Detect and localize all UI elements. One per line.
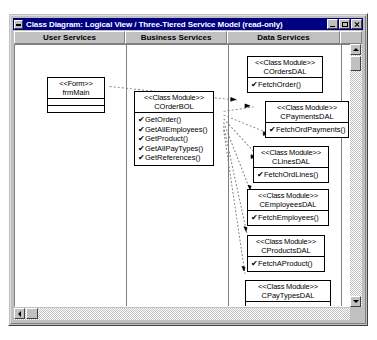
operation-marker-icon: ✔: [138, 153, 145, 163]
title-bar: Class Diagram: Logical View / Three-Tier…: [13, 18, 363, 30]
operation-marker-icon: ✔: [269, 125, 276, 135]
chevron-left-icon: [18, 311, 21, 317]
cpaymentsdal-name-compartment: <<Class Module>> CPaymentsDAL: [266, 102, 348, 123]
close-button[interactable]: [351, 19, 362, 29]
uml-class-cemployeesdal[interactable]: <<Class Module>> CEmployeesDAL ✔FetchEmp…: [247, 189, 329, 226]
operation-row: ✔GetReferences(): [138, 153, 211, 163]
operation-label: GetAllPayTypes(): [145, 144, 203, 154]
maximize-button[interactable]: [339, 19, 350, 29]
operation-marker-icon: ✔: [138, 115, 145, 125]
operation-row: ✔FetchEmployees(): [251, 213, 326, 223]
swimlane-headers: User Services Business Services Data Ser…: [14, 31, 362, 44]
uml-class-cproductsdal[interactable]: <<Class Module>> CProductsDAL ✔FetchAPro…: [247, 235, 325, 272]
operation-marker-icon: ✔: [257, 170, 264, 180]
minimize-button[interactable]: [327, 19, 338, 29]
operation-label: FetchOrdPayments(): [276, 125, 346, 135]
operation-marker-icon: ✔: [249, 304, 256, 307]
cproductsdal-operations-compartment: ✔FetchAProduct(): [248, 257, 324, 271]
operation-label: GetAllEmployees(): [145, 125, 208, 135]
operation-marker-icon: ✔: [138, 125, 145, 135]
uml-class-cpaytypesdal[interactable]: <<Class Module>> CPayTypesDAL ✔FetchPaym…: [245, 280, 331, 307]
frmmain-attributes-compartment: [48, 99, 104, 106]
cemployeesdal-name-compartment: <<Class Module>> CEmployeesDAL: [248, 190, 328, 211]
operation-row: ✔FetchOrdPayments(): [269, 125, 346, 135]
uml-class-frmmain[interactable]: <<Form>> frmMain: [47, 77, 105, 113]
clinesdal-name-compartment: <<Class Module>> CLinesDAL: [254, 147, 328, 168]
operation-marker-icon: ✔: [138, 144, 145, 154]
diagram-canvas[interactable]: <<Form>> frmMain <<Class Module>> COrder…: [14, 44, 362, 307]
scrollbar-corner: [350, 308, 362, 320]
operation-marker-icon: ✔: [251, 80, 258, 90]
operation-row: ✔FetchPaymentTypes(): [249, 304, 328, 307]
clinesdal-stereotype: <<Class Module>>: [256, 148, 326, 157]
cordersdal-class-name: COrdersDAL: [250, 67, 320, 76]
system-menu-icon[interactable]: [14, 20, 23, 29]
operation-row: ✔FetchOrdLines(): [257, 170, 326, 180]
horizontal-scrollbar-thumb[interactable]: [26, 308, 38, 319]
cemployeesdal-operations-compartment: ✔FetchEmployees(): [248, 211, 328, 225]
cpaytypesdal-stereotype: <<Class Module>>: [248, 282, 328, 291]
operation-marker-icon: ✔: [138, 134, 145, 144]
operation-label: FetchEmployees(): [258, 213, 319, 223]
cordersdal-operations-compartment: ✔FetchOrder(): [248, 78, 322, 92]
cproductsdal-name-compartment: <<Class Module>> CProductsDAL: [248, 236, 324, 257]
operation-label: FetchOrdLines(): [264, 170, 318, 180]
cpaymentsdal-stereotype: <<Class Module>>: [268, 103, 346, 112]
operation-row: ✔GetAllEmployees(): [138, 125, 211, 135]
operation-row: ✔GetProduct(): [138, 134, 211, 144]
corderbol-operations-compartment: ✔GetOrder() ✔GetAllEmployees() ✔GetProdu…: [135, 113, 213, 165]
uml-class-cpaymentsdal[interactable]: <<Class Module>> CPaymentsDAL ✔FetchOrdP…: [265, 101, 349, 138]
operation-row: ✔GetAllPayTypes(): [138, 144, 211, 154]
frmmain-operations-compartment: [48, 106, 104, 112]
cproductsdal-class-name: CProductsDAL: [250, 246, 322, 255]
window-inner-frame: Class Diagram: Logical View / Three-Tier…: [10, 15, 366, 324]
column-header-business-services[interactable]: Business Services: [125, 31, 227, 44]
cordersdal-name-compartment: <<Class Module>> COrdersDAL: [248, 57, 322, 78]
operation-row: ✔FetchOrder(): [251, 80, 320, 90]
operation-label: GetOrder(): [145, 115, 181, 125]
operation-label: GetReferences(): [145, 153, 200, 163]
operation-label: FetchPaymentTypes(): [256, 304, 329, 307]
horizontal-scrollbar-track[interactable]: [14, 308, 362, 320]
cpaymentsdal-class-name: CPaymentsDAL: [268, 112, 346, 121]
frmmain-stereotype: <<Form>>: [50, 79, 102, 88]
corderbol-name-compartment: <<Class Module>> COrderBOL: [135, 92, 213, 113]
class-diagram-window: Class Diagram: Logical View / Three-Tier…: [8, 13, 368, 326]
uml-class-corderbol[interactable]: <<Class Module>> COrderBOL ✔GetOrder() ✔…: [134, 91, 214, 166]
cpaytypesdal-class-name: CPayTypesDAL: [248, 291, 328, 300]
cpaytypesdal-name-compartment: <<Class Module>> CPayTypesDAL: [246, 281, 330, 302]
operation-marker-icon: ✔: [251, 213, 258, 223]
operation-label: FetchOrder(): [258, 80, 301, 90]
column-header-user-services[interactable]: User Services: [14, 31, 125, 44]
operation-label: FetchAProduct(): [258, 259, 313, 269]
scroll-left-button[interactable]: [14, 308, 25, 319]
clinesdal-operations-compartment: ✔FetchOrdLines(): [254, 168, 328, 182]
horizontal-scrollbar[interactable]: [14, 308, 362, 320]
cproductsdal-stereotype: <<Class Module>>: [250, 237, 322, 246]
frmmain-name-compartment: <<Form>> frmMain: [48, 78, 104, 99]
corderbol-class-name: COrderBOL: [137, 102, 211, 111]
cpaymentsdal-operations-compartment: ✔FetchOrdPayments(): [266, 123, 348, 137]
frmmain-class-name: frmMain: [50, 88, 102, 97]
operation-row: ✔FetchAProduct(): [251, 259, 322, 269]
cemployeesdal-class-name: CEmployeesDAL: [250, 200, 326, 209]
window-controls: [327, 19, 363, 29]
cordersdal-stereotype: <<Class Module>>: [250, 58, 320, 67]
operation-row: ✔GetOrder(): [138, 115, 211, 125]
operation-label: GetProduct(): [145, 134, 188, 144]
operation-marker-icon: ✔: [251, 259, 258, 269]
clinesdal-class-name: CLinesDAL: [256, 157, 326, 166]
cpaytypesdal-operations-compartment: ✔FetchPaymentTypes(): [246, 302, 330, 307]
column-header-spare[interactable]: [340, 31, 362, 44]
cemployeesdal-stereotype: <<Class Module>>: [250, 191, 326, 200]
uml-class-clinesdal[interactable]: <<Class Module>> CLinesDAL ✔FetchOrdLine…: [253, 146, 329, 183]
column-header-data-services[interactable]: Data Services: [227, 31, 340, 44]
window-title: Class Diagram: Logical View / Three-Tier…: [26, 20, 283, 29]
uml-class-cordersdal[interactable]: <<Class Module>> COrdersDAL ✔FetchOrder(…: [247, 56, 323, 93]
corderbol-stereotype: <<Class Module>>: [137, 93, 211, 102]
